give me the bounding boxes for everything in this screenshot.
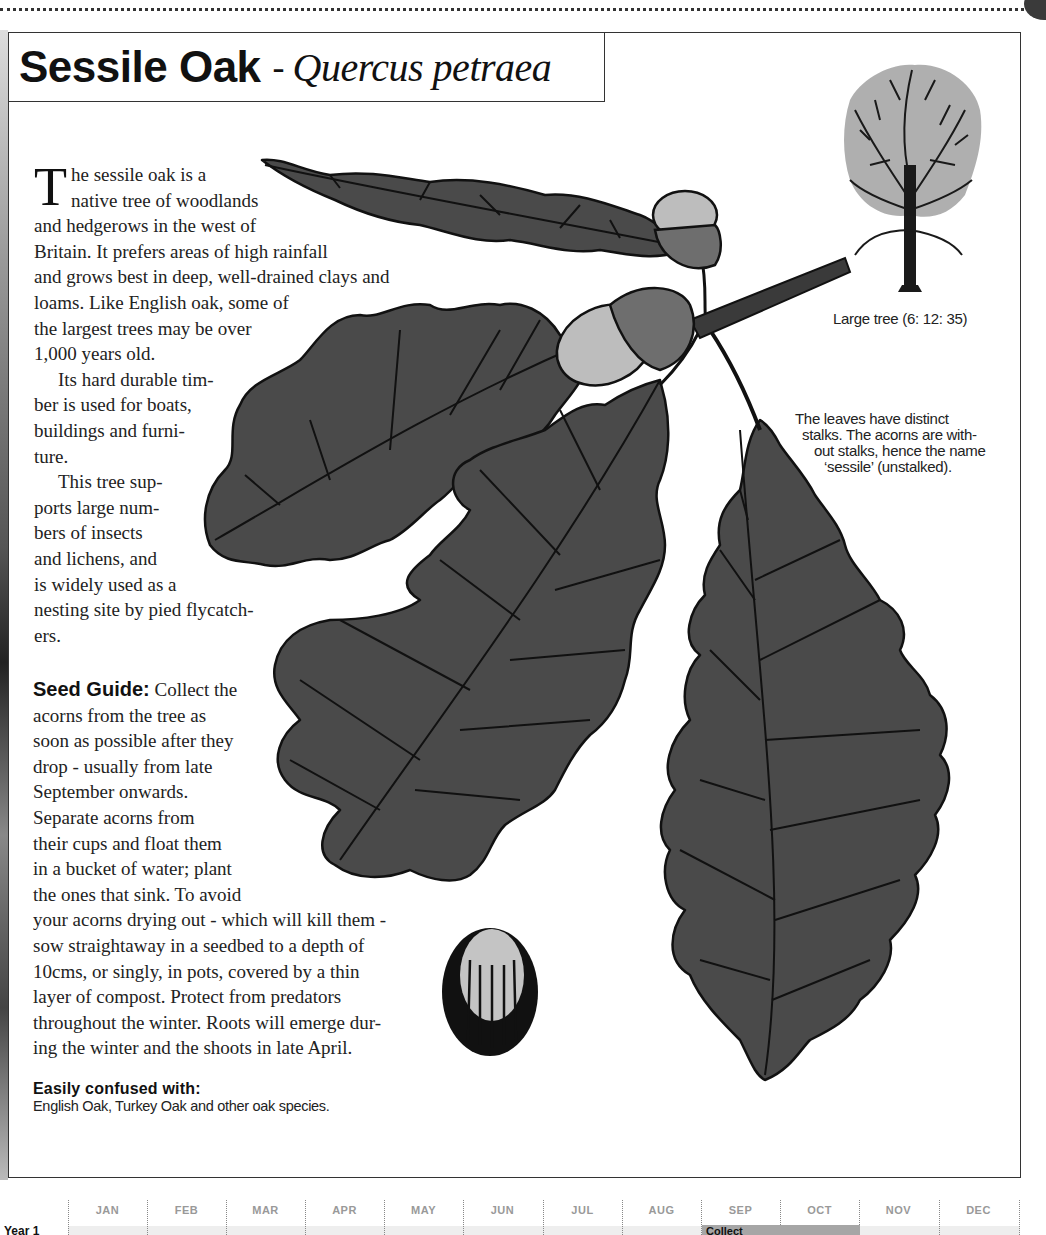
text-line: layer of compost. Protect from predators [33,984,386,1010]
easily-confused-section: Easily confused with: English Oak, Turke… [33,1080,330,1114]
text-line: the largest trees may be over [34,316,390,342]
text-line: ports large num- [34,495,390,521]
top-dotted-rule [0,8,1024,11]
text-line: ture. [34,444,390,470]
easily-confused-heading: Easily confused with: [33,1080,330,1098]
text-line: ber is used for boats, [34,392,390,418]
text-line: in a bucket of water; plant [33,856,386,882]
easily-confused-value: English Oak, Turkey Oak and other oak sp… [33,1098,330,1114]
text-line: throughout the winter. Roots will emerge… [33,1010,386,1036]
text-line: This tree sup- [34,469,390,495]
month-sep: SEP [701,1204,780,1216]
text-line: he sessile oak is a [34,162,390,188]
text-line: ing the winter and the shoots in late Ap… [33,1035,386,1061]
text-line: the ones that sink. To avoid [33,882,386,908]
calendar-row-label: Year 1 [4,1224,39,1235]
collect-period-bar: Collect [702,1225,860,1235]
month-dec: DEC [939,1204,1018,1216]
drop-cap: T [34,166,67,208]
month-oct: OCT [780,1204,859,1216]
caption-line: stalks. The acorns are with- [795,427,985,443]
text-line: Separate acorns from [33,805,386,831]
text-line: native tree of woodlands [34,188,390,214]
text-line: nesting site by pied flycatch- [34,597,390,623]
text-line: and grows best in deep, well-drained cla… [34,264,390,290]
page-title: Sessile Oak - Quercus petraea [8,32,605,102]
text-line: drop - usually from late [33,754,386,780]
month-apr: APR [305,1204,384,1216]
text-line: acorns from the tree as [33,703,386,729]
title-separator: - [273,46,285,88]
month-aug: AUG [622,1204,701,1216]
text-line: Collect the [150,679,238,700]
tree-size-caption: Large tree (6: 12: 35) [833,310,967,327]
month-may: MAY [384,1204,463,1216]
seed-guide-heading: Seed Guide: [33,678,150,700]
month-mar: MAR [226,1204,305,1216]
month-jan: JAN [68,1204,147,1216]
text-line: and hedgerows in the west of [34,213,390,239]
calendar-row-background [68,1226,1020,1235]
intro-paragraph: T he sessile oak is a native tree of woo… [34,162,390,648]
seed-guide: Seed Guide: Collect the acorns from the … [33,677,386,1061]
month-feb: FEB [147,1204,226,1216]
month-jul: JUL [543,1204,622,1216]
text-line: buildings and furni- [34,418,390,444]
caption-line: out stalks, hence the name [795,443,985,459]
text-line: ers. [34,623,390,649]
caption-line: ‘sessile’ (unstalked). [795,459,985,475]
leaf-caption: The leaves have distinct stalks. The aco… [795,411,985,475]
text-line: Britain. It prefers areas of high rainfa… [34,239,390,265]
text-line: 1,000 years old. [34,341,390,367]
text-line: is widely used as a [34,572,390,598]
month-nov: NOV [859,1204,938,1216]
text-line: soon as possible after they [33,728,386,754]
month-jun: JUN [463,1204,542,1216]
text-line: sow straightaway in a seedbed to a depth… [33,933,386,959]
text-line: bers of insects [34,520,390,546]
text-line: your acorns drying out - which will kill… [33,907,386,933]
text-line: and lichens, and [34,546,390,572]
text-line: their cups and float them [33,831,386,857]
month-divider [1019,1200,1020,1235]
seed-calendar: JAN FEB MAR APR MAY JUN JUL AUG SEP OCT … [0,1196,1046,1235]
common-name: Sessile Oak [19,42,261,92]
page-corner-tab [1024,0,1046,20]
text-line: 10cms, or singly, in pots, covered by a … [33,959,386,985]
text-line: loams. Like English oak, some of [34,290,390,316]
caption-line: The leaves have distinct [795,411,985,427]
page-edge-shading [0,30,8,1180]
latin-name: Quercus petraea [293,44,552,91]
text-line: September onwards. [33,779,386,805]
text-line: Its hard durable tim- [34,367,390,393]
